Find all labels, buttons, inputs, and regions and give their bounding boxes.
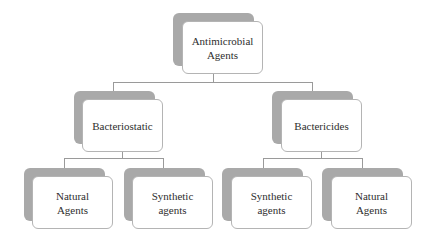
node-natural-agents-right: Natural Agents xyxy=(331,176,412,229)
node-label: Natural Agents xyxy=(56,189,89,217)
node-synthetic-agents-right: Synthetic agents xyxy=(231,176,312,229)
node-bactericides: Bactericides xyxy=(281,99,362,152)
node-synthetic-agents-left: Synthetic agents xyxy=(132,176,213,229)
node-natural-agents-left: Natural Agents xyxy=(32,176,113,229)
node-bacteriostatic: Bacteriostatic xyxy=(82,99,163,152)
connector-right-bar xyxy=(263,158,363,159)
node-label: Bacteriostatic xyxy=(92,119,152,133)
connector-to-leaf3 xyxy=(263,158,264,168)
connector-level1-bar xyxy=(113,82,313,83)
node-label: Natural Agents xyxy=(355,189,388,217)
connector-root-stem xyxy=(213,74,214,82)
connector-to-leaf4 xyxy=(362,158,363,168)
hierarchy-diagram: Antimicrobial Agents Bacteriostatic Bact… xyxy=(0,0,429,242)
node-label: Bactericides xyxy=(294,119,348,133)
node-label: Synthetic agents xyxy=(251,189,293,217)
node-antimicrobial-agents: Antimicrobial Agents xyxy=(182,21,263,74)
node-label: Antimicrobial Agents xyxy=(192,34,254,62)
connector-to-leaf2 xyxy=(163,158,164,168)
connector-to-leaf1 xyxy=(64,158,65,168)
node-label: Synthetic agents xyxy=(152,189,194,217)
connector-left-bar xyxy=(64,158,164,159)
